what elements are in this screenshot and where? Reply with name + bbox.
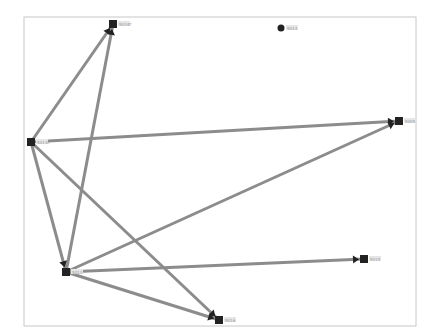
arrowhead-icon <box>353 255 359 263</box>
node-5013L[interactable]: 5013L <box>27 138 50 146</box>
edge-5013L-5016 <box>31 142 219 320</box>
node-5034F[interactable]: 5034F <box>109 20 132 28</box>
edge-5013-5034F <box>66 24 113 272</box>
node-5014[interactable]: 5014 <box>278 25 299 32</box>
node-square-icon <box>215 316 223 324</box>
node-square-icon <box>109 20 117 28</box>
edges-layer <box>31 24 399 321</box>
node-5015[interactable]: 5015 <box>360 255 381 263</box>
edge-5013-5005 <box>66 121 399 272</box>
node-label: 5013 <box>72 270 83 275</box>
edge-5013L-5005 <box>31 121 399 142</box>
edge-5013-5015 <box>66 259 364 272</box>
node-label: 5014 <box>287 26 298 31</box>
network-graph-canvas: 5034F50145013L5005501350155016 <box>0 0 438 335</box>
edge-5013L-5013 <box>31 142 66 272</box>
node-5016[interactable]: 5016 <box>215 316 236 324</box>
node-label: 5013L <box>37 140 50 145</box>
node-circle-icon <box>278 25 285 32</box>
plot-frame <box>24 17 416 326</box>
node-square-icon <box>360 255 368 263</box>
node-square-icon <box>395 117 403 125</box>
node-5005[interactable]: 5005 <box>395 117 416 125</box>
node-label: 5005 <box>405 119 416 124</box>
edge-5013-5016 <box>66 272 219 320</box>
node-label: 5015 <box>370 257 381 262</box>
node-label: 5016 <box>225 318 236 323</box>
node-label: 5034F <box>119 22 132 27</box>
node-square-icon <box>62 268 70 276</box>
node-square-icon <box>27 138 35 146</box>
